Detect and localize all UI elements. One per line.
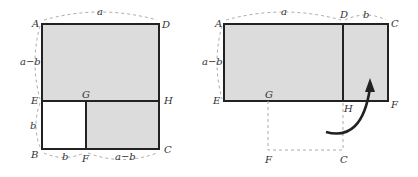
label-C-right: C xyxy=(391,18,399,29)
label-H-right: H xyxy=(343,103,353,114)
figure-left: A D E G H B F C a a−b b b a−b xyxy=(20,6,173,164)
label-E-right: E xyxy=(212,95,221,106)
ghost-rect-GFCH xyxy=(268,101,343,150)
dim-bottom-left: b xyxy=(62,151,68,162)
label-G-right: G xyxy=(265,89,273,100)
square-EBFG xyxy=(42,101,86,149)
label-A: A xyxy=(31,18,39,29)
label-C-ghost: C xyxy=(340,154,348,165)
label-B: B xyxy=(30,149,38,160)
label-D: D xyxy=(161,19,170,30)
label-G: G xyxy=(82,89,90,100)
dim-left-right: a−b xyxy=(202,56,223,67)
rect-GFCH xyxy=(86,101,159,149)
dim-left-upper: a−b xyxy=(20,56,41,67)
label-A-right: A xyxy=(214,18,222,29)
label-E: E xyxy=(30,95,39,106)
dim-top-right-right: b xyxy=(363,9,369,20)
dim-top: a xyxy=(97,6,103,17)
label-F-ghost: F xyxy=(264,154,273,165)
label-F-right: F xyxy=(390,99,399,110)
dim-top-left-right: a xyxy=(281,6,287,17)
rect-AECF xyxy=(224,24,388,101)
label-F: F xyxy=(81,153,90,164)
figure-right: A D C E G H F F C a b a−b xyxy=(202,6,399,165)
label-H: H xyxy=(163,95,173,106)
label-D-right: D xyxy=(339,9,348,20)
dim-left-lower: b xyxy=(30,120,36,131)
dim-bottom-right: a−b xyxy=(115,151,136,162)
dim-arc-left-lower xyxy=(36,103,40,147)
label-C: C xyxy=(164,144,172,155)
rect-AEHD xyxy=(42,24,159,101)
diagram-canvas: A D E G H B F C a a−b b b a−b A D C E G … xyxy=(0,0,418,177)
